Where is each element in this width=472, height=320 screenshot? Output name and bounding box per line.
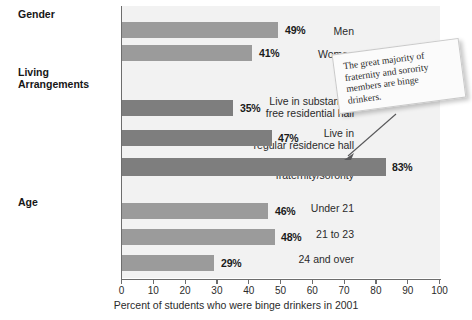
x-tick-mark: [375, 280, 376, 284]
x-tick-mark: [312, 280, 313, 284]
x-tick-label: 50: [275, 285, 286, 296]
x-tick-mark: [153, 280, 154, 284]
x-tick-label: 0: [119, 285, 125, 296]
x-tick-label: 80: [370, 285, 381, 296]
bar-value-24-and-over: 29%: [221, 257, 241, 269]
category-label-21-to-23: 21 to 23: [316, 228, 354, 240]
bar-24-and-over: [122, 255, 214, 271]
bar-value-women: 41%: [259, 47, 279, 59]
x-tick-label: 70: [339, 285, 350, 296]
bar-value-regular-residence-hall: 47%: [278, 132, 298, 144]
x-tick-mark: [280, 280, 281, 284]
bar-value-substance-free-hall: 35%: [240, 102, 260, 114]
category-label-under-21: Under 21: [311, 202, 354, 214]
annotation-callout-text: The great majority of fraternity and sor…: [342, 46, 456, 106]
bar-men: [122, 22, 278, 38]
group-label-living-arrangements: Living Arrangements: [18, 66, 89, 91]
x-tick-mark: [248, 280, 249, 284]
x-tick-label: 40: [243, 285, 254, 296]
x-tick-label: 20: [180, 285, 191, 296]
x-tick-label: 30: [211, 285, 222, 296]
bar-women: [122, 45, 252, 61]
x-tick-mark: [439, 280, 440, 284]
x-tick-label: 10: [148, 285, 159, 296]
bar-regular-residence-hall: [122, 130, 272, 146]
x-tick-label: 100: [431, 285, 448, 296]
group-label-age: Age: [18, 196, 38, 208]
bar-value-21-to-23: 48%: [281, 231, 301, 243]
bar-value-men: 49%: [285, 24, 305, 36]
bar-21-to-23: [122, 229, 275, 245]
bar-value-under-21: 46%: [275, 205, 295, 217]
binge-drinking-bar-chart: Gender Living Arrangements Age Men Women…: [0, 0, 472, 320]
category-label-24-and-over: 24 and over: [299, 253, 354, 265]
x-tick-label: 60: [307, 285, 318, 296]
category-label-men: Men: [334, 25, 354, 37]
group-label-gender: Gender: [18, 8, 55, 20]
x-tick-mark: [185, 280, 186, 284]
x-tick-mark: [344, 280, 345, 284]
x-tick-mark: [121, 280, 122, 284]
bar-fraternity-sorority: [122, 158, 386, 176]
bar-substance-free-hall: [122, 100, 233, 116]
bar-under-21: [122, 203, 268, 219]
bar-value-fraternity-sorority: 83%: [392, 161, 412, 173]
x-axis-title: Percent of students who were binge drink…: [0, 299, 472, 311]
x-tick-mark: [216, 280, 217, 284]
x-tick-label: 90: [402, 285, 413, 296]
x-tick-mark: [407, 280, 408, 284]
